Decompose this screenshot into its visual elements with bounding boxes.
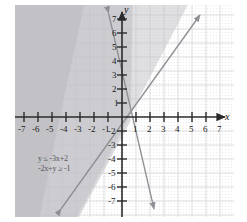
x-tick-label-5: 5 xyxy=(189,125,194,134)
inequality-line-2: -2x+y ≥ -1 xyxy=(38,164,70,174)
y-tick-label--7: -7 xyxy=(108,197,116,206)
x-tick-label-2: 2 xyxy=(147,125,152,134)
y-tick-label-4: 4 xyxy=(112,57,117,66)
coordinate-plane: -7 -6 -5 -4 -3 -2 -1 1 2 3 4 5 6 7 7 6 5… xyxy=(15,5,234,217)
x-axis-label: x xyxy=(225,112,229,122)
x-tick-label--2: -2 xyxy=(88,125,96,134)
x-tick-label-3: 3 xyxy=(161,125,166,134)
x-tick-label-4: 4 xyxy=(175,125,180,134)
x-tick-label-6: 6 xyxy=(203,125,208,134)
x-tick-label--3: -3 xyxy=(74,125,82,134)
y-tick-label--6: -6 xyxy=(108,183,116,192)
y-tick-label-1: 1 xyxy=(114,99,119,108)
graph-svg xyxy=(15,5,234,217)
y-tick-label--3: -3 xyxy=(108,141,116,150)
x-tick-label--5: -5 xyxy=(46,125,54,134)
y-tick-label--2: -2 xyxy=(108,127,116,136)
x-tick-label--4: -4 xyxy=(60,125,68,134)
y-axis-label: y xyxy=(124,5,128,15)
inequality-annotations: y ≤ -3x+2 -2x+y ≥ -1 xyxy=(38,154,70,174)
y-tick-label-3: 3 xyxy=(112,71,117,80)
graph-figure: -7 -6 -5 -4 -3 -2 -1 1 2 3 4 5 6 7 7 6 5… xyxy=(0,0,247,222)
y-tick-label-5: 5 xyxy=(112,43,117,52)
x-tick-label-1: 1 xyxy=(133,125,138,134)
y-tick-label-6: 6 xyxy=(112,29,117,38)
y-tick-label--4: -4 xyxy=(108,155,116,164)
x-tick-label--7: -7 xyxy=(18,125,26,134)
inequality-line-1: y ≤ -3x+2 xyxy=(38,154,70,164)
x-tick-label-7: 7 xyxy=(217,125,222,134)
y-tick-label-7: 7 xyxy=(112,15,117,24)
y-tick-label--5: -5 xyxy=(108,169,116,178)
y-tick-label-2: 2 xyxy=(112,85,117,94)
x-tick-label--6: -6 xyxy=(32,125,40,134)
